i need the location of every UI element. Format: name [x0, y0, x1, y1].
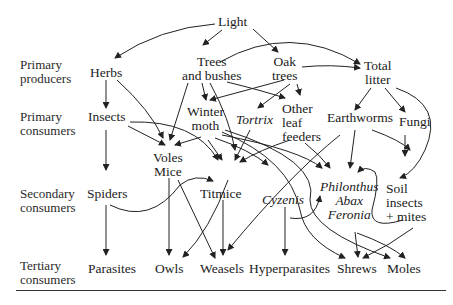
- node-soil-insects-mites: Soil insects + mites: [386, 182, 426, 224]
- node-owls: Owls: [155, 262, 184, 276]
- node-other-leaf-feeders: Other leaf feeders: [282, 102, 321, 144]
- node-herbs: Herbs: [90, 66, 122, 80]
- node-weasels: Weasels: [200, 262, 244, 276]
- node-parasites: Parasites: [88, 262, 136, 276]
- node-oak-trees: Oak trees: [272, 55, 297, 83]
- node-moles: Moles: [387, 262, 421, 276]
- node-winter-moth: Winter moth: [187, 105, 224, 133]
- node-spiders: Spiders: [87, 187, 128, 201]
- level-label-primary-consumers: Primary consumers: [20, 110, 76, 138]
- node-voles-mice: Voles Mice: [153, 151, 183, 179]
- node-light: Light: [218, 15, 247, 29]
- node-shrews: Shrews: [337, 262, 377, 276]
- node-earthworms: Earthworms: [327, 111, 393, 125]
- node-insects: Insects: [88, 110, 126, 124]
- node-trees-and-bushes: Trees and bushes: [182, 55, 242, 83]
- level-label-tertiary-consumers: Tertiary consumers: [20, 259, 76, 287]
- node-philonthus-abax-feronia: Philonthus Abax Feronia: [320, 180, 379, 222]
- node-hyperparasites: Hyperparasites: [249, 262, 330, 276]
- node-cyzenis: Cyzenis: [262, 193, 304, 207]
- level-label-primary-producers: Primary producers: [20, 58, 71, 86]
- level-label-secondary-consumers: Secondary consumers: [20, 187, 76, 215]
- node-fungi: Fungi: [399, 115, 431, 129]
- bottom-rule: [16, 290, 446, 291]
- node-tortrix: Tortrix: [236, 113, 273, 127]
- node-titmice: Titmice: [200, 187, 242, 201]
- node-total-litter: Total litter: [364, 59, 392, 87]
